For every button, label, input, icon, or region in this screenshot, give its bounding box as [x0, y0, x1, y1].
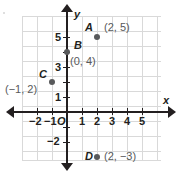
data-point-a-name: A — [85, 22, 93, 33]
x-axis-arrow-left-icon — [6, 106, 14, 118]
data-point-a — [94, 34, 100, 40]
y-axis-label: y — [74, 9, 80, 20]
x-tick-label-2: 2 — [94, 116, 100, 127]
x-axis-label: x — [163, 95, 169, 106]
x-axis-arrow-right-icon — [168, 106, 176, 118]
x-tick — [82, 108, 83, 115]
y-tick — [63, 142, 70, 143]
y-tick — [63, 37, 70, 38]
coordinate-plane-figure: y x −2 −1 1 2 3 4 5 O 5 3 1 −2 A (2, 5) … — [0, 0, 178, 177]
grid-line-horizontal — [22, 106, 161, 107]
y-axis-arrow-up-icon — [61, 4, 73, 12]
y-tick — [63, 127, 70, 128]
grid-line-horizontal — [22, 91, 161, 92]
data-point-a-coord: (2, 5) — [104, 22, 130, 33]
grid-line-horizontal — [22, 46, 161, 47]
x-tick-label-1: 1 — [79, 116, 85, 127]
data-point-c-coord: (−1, 2) — [5, 84, 37, 95]
data-point-c-name: C — [39, 69, 47, 80]
x-tick — [37, 108, 38, 115]
y-tick-label-5: 5 — [55, 32, 61, 43]
grid-line-vertical — [37, 16, 38, 161]
data-point-d — [94, 154, 100, 160]
x-tick-label-neg1: −1 — [44, 116, 57, 127]
y-tick-label-1: 1 — [55, 92, 61, 103]
x-tick — [97, 108, 98, 115]
image-speck — [3, 12, 5, 14]
data-point-b-coord: (0, 4) — [70, 56, 96, 67]
x-tick-label-5: 5 — [139, 116, 145, 127]
data-point-d-name: D — [85, 151, 93, 162]
data-point-c — [49, 79, 55, 85]
y-tick — [63, 97, 70, 98]
origin-label: O — [57, 116, 66, 127]
x-tick — [127, 108, 128, 115]
grid-lines — [22, 16, 161, 161]
y-tick — [63, 82, 70, 83]
grid-line-vertical — [82, 16, 83, 161]
x-tick — [142, 108, 143, 115]
x-tick-label-3: 3 — [109, 116, 115, 127]
data-point-b-name: B — [74, 40, 82, 51]
x-tick-label-neg2: −2 — [29, 116, 42, 127]
y-tick — [63, 67, 70, 68]
x-tick — [52, 108, 53, 115]
y-tick-label-3: 3 — [55, 62, 61, 73]
data-point-d-coord: (2, −3) — [104, 151, 136, 162]
y-tick-label-neg2: −2 — [47, 136, 60, 147]
grid-line-vertical — [142, 16, 143, 161]
x-tick-label-4: 4 — [124, 116, 130, 127]
x-axis-line — [12, 111, 170, 113]
grid-line-vertical — [127, 16, 128, 161]
grid-line-horizontal — [22, 16, 161, 17]
grid-line-vertical — [112, 16, 113, 161]
grid-line-vertical — [157, 16, 158, 161]
grid-line-horizontal — [22, 136, 161, 137]
y-axis-arrow-down-icon — [61, 163, 73, 171]
x-tick — [112, 108, 113, 115]
